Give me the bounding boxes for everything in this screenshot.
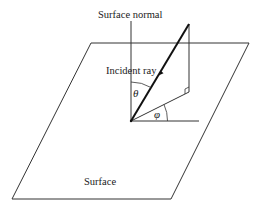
- surface-normal-label: Surface normal: [98, 9, 163, 20]
- incidence-angle-diagram: Surface normal Incident ray θ φ Surface: [0, 0, 261, 209]
- origin-point: [130, 120, 132, 122]
- surface-label: Surface: [84, 176, 116, 187]
- incident-ray-label: Incident ray: [106, 65, 157, 76]
- phi-label: φ: [154, 108, 160, 120]
- theta-label: θ: [133, 87, 139, 99]
- phi-arc: [164, 105, 168, 122]
